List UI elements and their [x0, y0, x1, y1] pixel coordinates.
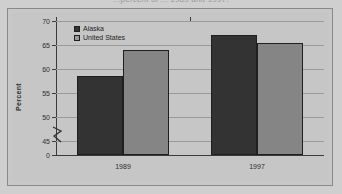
y-axis-title: Percent [15, 83, 22, 111]
y-tick-label-0: 0 [46, 152, 50, 159]
bar-united-states-1997 [257, 43, 303, 155]
y-tick-label-60: 60 [42, 66, 50, 73]
figure-frame: Percent 4550556065700 19891997 AlaskaUni… [7, 8, 333, 186]
y-tick-55 [52, 93, 56, 94]
united-states-swatch [74, 35, 80, 41]
bar-alaska-1989 [77, 76, 123, 155]
y-tick-60 [52, 69, 56, 70]
bar-group-1997 [211, 16, 303, 155]
legend-item-alaska: Alaska [74, 25, 125, 32]
bar-united-states-1989 [123, 50, 169, 155]
legend-item-united-states: United States [74, 34, 125, 41]
chart-figure: ...percent of ... 1989 and 1997. Percent… [0, 0, 342, 194]
y-tick-label-55: 55 [42, 90, 50, 97]
legend-label: Alaska [83, 25, 104, 32]
bar-alaska-1997 [211, 35, 257, 155]
y-tick-label-65: 65 [42, 42, 50, 49]
y-tick-70 [52, 21, 56, 22]
chart-legend: AlaskaUnited States [74, 25, 125, 41]
y-tick-0 [52, 155, 56, 156]
x-tick-label-1997: 1997 [249, 163, 265, 170]
y-tick-label-50: 50 [42, 114, 50, 121]
x-axis-line [56, 155, 324, 156]
chart-canvas: Percent 4550556065700 19891997 AlaskaUni… [12, 12, 328, 182]
legend-label: United States [83, 34, 125, 41]
alaska-swatch [74, 26, 80, 32]
clipped-title: ...percent of ... 1989 and 1997. [0, 0, 342, 7]
x-tick-label-1989: 1989 [115, 163, 131, 170]
y-tick-label-70: 70 [42, 18, 50, 25]
y-tick-label-45: 45 [42, 138, 50, 145]
x-major-tick-1 [190, 17, 191, 21]
y-tick-65 [52, 45, 56, 46]
y-tick-50 [52, 117, 56, 118]
axis-break-icon [52, 126, 63, 143]
